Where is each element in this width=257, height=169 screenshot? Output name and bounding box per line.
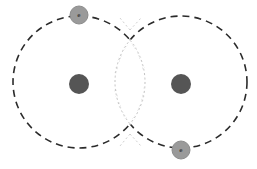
left-nucleus: [69, 74, 89, 94]
diagram-background: [0, 0, 257, 169]
electron-marker-circle: [172, 141, 190, 159]
diagram-root: e e: [0, 0, 257, 169]
electron-bottom-right: e: [172, 141, 190, 159]
orbital-overlap-diagram: e e: [0, 0, 257, 169]
right-nucleus: [171, 74, 191, 94]
electron-marker-circle: [70, 6, 88, 24]
electron-top-left: e: [70, 6, 88, 24]
